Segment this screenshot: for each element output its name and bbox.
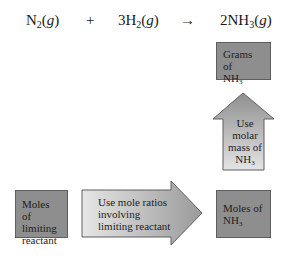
grams-nh3-box: Grams of NH3 [216,42,271,80]
moles-nh3-box: Moles of NH3 [216,190,271,238]
equation-product-nh3: 2NH3(g) [220,12,272,30]
h2-subscript: 2 [136,19,141,30]
nh3-coefficient: 2 [220,12,228,28]
moles-nh3-symbol: NH [223,214,239,226]
grams-nh3-symbol: NH [223,72,239,84]
moles-limiting-line3: reactant [22,234,61,246]
up-arrow-symbol: NH [235,153,251,165]
right-arrow-line3: limiting reactant [98,220,170,232]
equation-plus: + [86,12,94,29]
up-arrow-line2: molar [226,129,264,141]
up-arrow-line3: mass of [226,141,264,153]
n2-subscript: 2 [37,19,42,30]
nh3-symbol: NH [228,12,250,28]
up-arrow-subscript: 3 [251,159,255,167]
right-arrow-line1: Use mole ratios [98,196,170,208]
moles-nh3-line2: NH3 [223,214,264,230]
grams-nh3-line2: NH3 [223,72,264,88]
equation-arrow: → [180,12,195,29]
nh3-state: g [259,12,267,28]
moles-nh3-subscript: 3 [239,220,243,228]
up-arrow-label: Use molar mass of NH3 [226,117,264,169]
grams-nh3-line1: Grams of [223,48,264,72]
n2-symbol: N [26,12,37,28]
moles-limiting-line2: limiting [22,222,61,234]
equation-reactant-h2: 3H2(g) [118,12,159,30]
h2-symbol: H [126,12,137,28]
moles-nh3-line1: Moles of [223,202,264,214]
moles-limiting-line1: Moles of [22,198,61,222]
right-arrow-line2: involving [98,208,170,220]
moles-limiting-reactant-box: Moles of limiting reactant [15,190,68,238]
grams-nh3-subscript: 3 [239,78,243,86]
right-arrow-label: Use mole ratios involving limiting react… [98,196,170,232]
equation-reactant-n2: N2(g) [26,12,59,30]
up-arrow-line4: NH3 [226,153,264,169]
h2-coefficient: 3 [118,12,126,28]
n2-state: g [47,12,55,28]
up-arrow-line1: Use [226,117,264,129]
h2-state: g [146,12,154,28]
nh3-subscript: 3 [249,19,254,30]
